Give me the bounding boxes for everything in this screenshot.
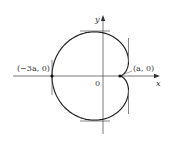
origin-label: 0 bbox=[95, 79, 100, 88]
x-axis-label: x bbox=[156, 79, 161, 88]
x-axis-arrow-icon bbox=[154, 74, 160, 78]
point-a bbox=[118, 74, 121, 77]
cardioid-diagram: (−3a, 0) (a, 0) 0 x y bbox=[0, 0, 170, 151]
y-axis-arrow-icon bbox=[101, 15, 105, 21]
point-neg3a bbox=[50, 74, 53, 77]
label-a: (a, 0) bbox=[133, 64, 154, 73]
y-axis-label: y bbox=[94, 15, 100, 24]
label-leader-a bbox=[122, 71, 132, 75]
label-neg3a: (−3a, 0) bbox=[17, 64, 50, 73]
